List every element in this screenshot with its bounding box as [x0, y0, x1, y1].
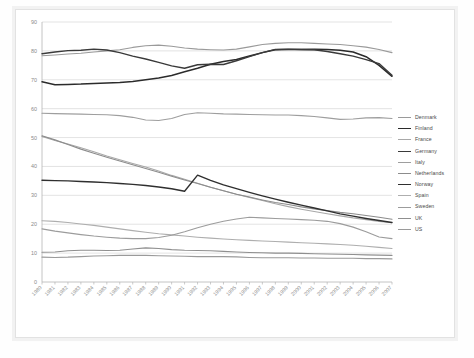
y-axis-tick-label: 50 — [31, 135, 37, 141]
y-axis-tick-label: 80 — [31, 48, 37, 54]
legend-item-label: Denmark — [415, 115, 437, 120]
y-axis-tick-label: 0 — [34, 279, 37, 285]
legend-item-denmark[interactable]: Denmark — [398, 112, 472, 123]
x-axis-tick-label: 1999 — [277, 284, 289, 296]
legend-item-label: Finland — [415, 126, 433, 131]
legend-item-finland[interactable]: Finland — [398, 123, 472, 134]
legend-item-label: UK — [415, 216, 422, 221]
legend-item-label: Italy — [415, 160, 425, 165]
legend-item-us[interactable]: US — [398, 224, 472, 235]
x-axis-tick-label: 1998 — [264, 284, 276, 296]
x-axis-tick-label: 1994 — [212, 284, 224, 296]
x-axis-tick-label: 1989 — [147, 284, 159, 296]
legend-swatch-icon — [398, 218, 411, 219]
x-axis-tick-label: 2001 — [303, 284, 315, 296]
legend-item-label: Netherlands — [415, 171, 444, 176]
legend-swatch-icon — [398, 173, 411, 174]
x-axis-tick-label: 1980 — [30, 284, 42, 296]
x-axis-tick-label: 2003 — [328, 284, 340, 296]
chart-screenshot: 0102030405060708090198019811982198319841… — [0, 0, 474, 358]
y-axis-tick-label: 70 — [31, 77, 37, 83]
x-axis-tick-label: 1981 — [43, 284, 55, 296]
legend-item-label: Germany — [415, 149, 437, 154]
x-axis-tick-label: 1987 — [121, 284, 133, 296]
legend-item-label: Spain — [415, 193, 429, 198]
x-axis-tick-label: 2005 — [354, 284, 366, 296]
y-axis-tick-label: 60 — [31, 106, 37, 112]
legend-item-germany[interactable]: Germany — [398, 146, 472, 157]
y-axis-tick-label: 30 — [31, 192, 37, 198]
legend-item-italy[interactable]: Italy — [398, 157, 472, 168]
y-axis-tick-label: 40 — [31, 163, 37, 169]
legend-item-label: France — [415, 137, 432, 142]
legend-swatch-icon — [398, 229, 411, 230]
legend-swatch-icon — [398, 151, 411, 152]
x-axis-tick-label: 1990 — [160, 284, 172, 296]
x-axis-tick-label: 1992 — [186, 284, 198, 296]
x-axis-tick-label: 1997 — [251, 284, 263, 296]
legend-swatch-icon — [398, 207, 411, 208]
legend-item-label: US — [415, 227, 422, 232]
legend-item-netherlands[interactable]: Netherlands — [398, 168, 472, 179]
series-line-france — [42, 136, 392, 222]
x-axis-tick-label: 1988 — [134, 284, 146, 296]
x-axis-tick-label: 1993 — [199, 284, 211, 296]
series-line-italy — [42, 113, 392, 121]
series-line-netherlands — [42, 136, 392, 219]
legend-item-label: Norway — [415, 182, 433, 187]
legend-swatch-icon — [398, 195, 411, 196]
series-line-sweden — [42, 217, 392, 238]
x-axis-tick-label: 1991 — [173, 284, 185, 296]
x-axis-tick-label: 1985 — [95, 284, 107, 296]
x-axis-tick-label: 1986 — [108, 284, 120, 296]
legend-swatch-icon — [398, 128, 411, 129]
legend-item-label: Sweden — [415, 204, 434, 209]
chart-legend: DenmarkFinlandFranceGermanyItalyNetherla… — [398, 112, 472, 235]
series-line-us — [42, 255, 392, 258]
x-axis-tick-label: 1982 — [56, 284, 68, 296]
series-line-spain — [42, 221, 392, 249]
legend-item-uk[interactable]: UK — [398, 213, 472, 224]
y-axis-tick-label: 20 — [31, 221, 37, 227]
x-axis-tick-label: 1984 — [82, 284, 94, 296]
x-axis-tick-label: 1983 — [69, 284, 81, 296]
legend-item-spain[interactable]: Spain — [398, 190, 472, 201]
legend-swatch-icon — [398, 117, 411, 118]
x-axis-tick-label: 2002 — [315, 284, 327, 296]
legend-swatch-icon — [398, 184, 411, 185]
line-chart: 0102030405060708090198019811982198319841… — [15, 9, 455, 338]
legend-item-france[interactable]: France — [398, 134, 472, 145]
legend-item-norway[interactable]: Norway — [398, 179, 472, 190]
x-axis-tick-label: 1996 — [238, 284, 250, 296]
legend-swatch-icon — [398, 139, 411, 140]
x-axis-tick-label: 2007 — [380, 284, 392, 296]
x-axis-tick-label: 2006 — [367, 284, 379, 296]
y-axis-tick-label: 10 — [31, 250, 37, 256]
x-axis-tick-label: 1995 — [225, 284, 237, 296]
legend-item-sweden[interactable]: Sweden — [398, 202, 472, 213]
legend-swatch-icon — [398, 162, 411, 163]
series-line-uk — [42, 248, 392, 256]
series-line-finland — [42, 49, 392, 85]
y-axis-tick-label: 90 — [31, 19, 37, 25]
x-axis-tick-label: 2000 — [290, 284, 302, 296]
x-axis-tick-label: 2004 — [341, 284, 353, 296]
